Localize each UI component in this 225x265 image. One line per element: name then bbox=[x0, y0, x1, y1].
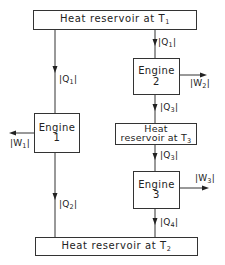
reservoir-t3-subscript: 3 bbox=[187, 137, 191, 145]
reservoir-t2-text: Heat reservoir at T bbox=[61, 240, 166, 251]
label-q2: |Q2| bbox=[59, 199, 77, 211]
label-q3-lower: |Q3| bbox=[160, 150, 178, 162]
label-w2: |W2| bbox=[190, 78, 210, 90]
engine-2: Engine 2 bbox=[133, 58, 180, 95]
arrow-down-icon bbox=[53, 66, 58, 73]
engine-1-number: 1 bbox=[54, 133, 61, 144]
reservoir-t3-text: reservoir at T bbox=[121, 132, 187, 143]
arrow-right-icon bbox=[202, 186, 209, 191]
reservoir-t2-label: Heat reservoir at T2 bbox=[61, 241, 171, 253]
label-q1-right: |Q1| bbox=[158, 37, 176, 49]
heat-reservoir-t1: Heat reservoir at T1 bbox=[33, 10, 197, 30]
q-symbol: |Q bbox=[160, 150, 171, 160]
arrow-down-icon bbox=[153, 104, 158, 111]
arrow-down-icon bbox=[53, 193, 58, 200]
arrow-down-icon bbox=[153, 153, 158, 160]
engine-3-number: 3 bbox=[153, 190, 160, 201]
q-symbol: |Q bbox=[160, 217, 171, 227]
label-q4: |Q4| bbox=[160, 217, 178, 229]
reservoir-t3-line2: reservoir at T3 bbox=[121, 133, 192, 145]
label-w3: |W3| bbox=[195, 173, 215, 185]
engine-1: Engine 1 bbox=[34, 113, 80, 153]
abs-bar: | bbox=[175, 102, 178, 112]
abs-bar: | bbox=[207, 78, 210, 88]
engine-2-label: Engine bbox=[138, 66, 175, 77]
engine-2-number: 2 bbox=[153, 77, 160, 88]
reservoir-t1-subscript: 1 bbox=[165, 18, 170, 26]
arrow-down-icon bbox=[153, 39, 158, 46]
abs-bar: | bbox=[74, 199, 77, 209]
w-symbol: |W bbox=[190, 78, 202, 88]
abs-bar: | bbox=[74, 74, 77, 84]
abs-bar: | bbox=[175, 217, 178, 227]
arrow-left-icon bbox=[9, 131, 16, 136]
reservoir-t2-subscript: 2 bbox=[167, 245, 172, 253]
heat-reservoir-t3: Heat reservoir at T3 bbox=[115, 123, 197, 145]
label-q3-upper: |Q3| bbox=[160, 102, 178, 114]
label-w1: |W1| bbox=[10, 138, 30, 150]
heat-reservoir-t2: Heat reservoir at T2 bbox=[35, 237, 198, 256]
reservoir-t1-text: Heat reservoir at T bbox=[60, 13, 165, 24]
reservoir-t1-label: Heat reservoir at T1 bbox=[60, 14, 170, 26]
q-symbol: |Q bbox=[158, 37, 169, 47]
q-symbol: |Q bbox=[59, 199, 70, 209]
abs-bar: | bbox=[173, 37, 176, 47]
abs-bar: | bbox=[27, 138, 30, 148]
q-symbol: |Q bbox=[160, 102, 171, 112]
q-symbol: |Q bbox=[59, 74, 70, 84]
arrow-down-icon bbox=[153, 218, 158, 225]
w-symbol: |W bbox=[10, 138, 22, 148]
w-symbol: |W bbox=[195, 173, 207, 183]
label-q1-left: |Q1| bbox=[59, 74, 77, 86]
arrow-right-icon bbox=[200, 73, 207, 78]
engine-3: Engine 3 bbox=[133, 171, 180, 209]
abs-bar: | bbox=[212, 173, 215, 183]
abs-bar: | bbox=[175, 150, 178, 160]
